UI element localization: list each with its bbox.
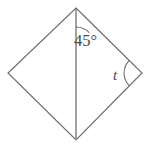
geometry-figure: 45° t	[0, 0, 148, 145]
geometry-canvas: 45° t	[0, 0, 148, 145]
angle-arc-t	[124, 60, 129, 85]
angle-label-45-degrees: 45°	[74, 31, 97, 50]
angle-label-t: t	[113, 67, 118, 83]
rhombus-outline	[8, 8, 142, 140]
